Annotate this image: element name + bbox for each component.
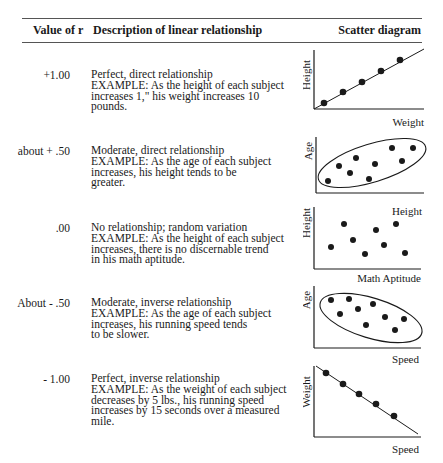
r-value: about + .50 [0,145,70,157]
header-value-of-r: Value of r [33,23,83,38]
description: No relationship; random variation EXAMPL… [91,222,291,265]
example-line: in his math aptitude. [91,254,291,265]
example-line: increases by 15 seconds over a measured [91,405,291,416]
top-rule [22,18,422,19]
y-axis-label: Weight [303,376,312,408]
example-line: greater. [91,177,291,188]
r-value: - 1.00 [0,373,70,385]
example-line: mile. [91,416,291,427]
y-axis-label: Height [303,60,312,90]
scatter-perfect-inverse: Weight Speed [303,360,443,463]
y-axis-label: Age [303,142,314,160]
y-axis-label: Age [303,291,312,309]
description: Moderate, inverse relationship EXAMPLE: … [91,297,291,340]
y-axis-label: Height [303,208,312,238]
r-value: About - .50 [0,297,70,309]
header-scatter-diagram: Scatter diagram [338,23,421,38]
example-line: EXAMPLE: As the height of each subject [91,80,291,91]
example-line: EXAMPLE: As the weight of each subject [91,384,291,395]
r-value: +1.00 [0,69,70,81]
example-line: EXAMPLE: As the height of each subject [91,233,291,244]
description: Perfect, direct relationship EXAMPLE: As… [91,69,291,112]
x-axis-label: Speed [392,443,419,455]
example-line: EXAMPLE: As the age of each subject [91,156,291,167]
header-description: Description of linear relationship [93,23,262,38]
x-axis-label: Math Aptitude [357,272,421,284]
example-line: to be slower. [91,329,291,340]
example-line: pounds. [91,101,291,112]
r-value: .00 [0,222,70,234]
example-line: EXAMPLE: As the age of each subject [91,308,291,319]
x-axis-label: Weight [393,116,425,128]
header-rule [22,42,422,43]
scatter-perfect-direct: Height Weight [303,45,443,130]
description: Perfect, inverse relationship EXAMPLE: A… [91,373,291,427]
description: Moderate, direct relationship EXAMPLE: A… [91,145,291,188]
